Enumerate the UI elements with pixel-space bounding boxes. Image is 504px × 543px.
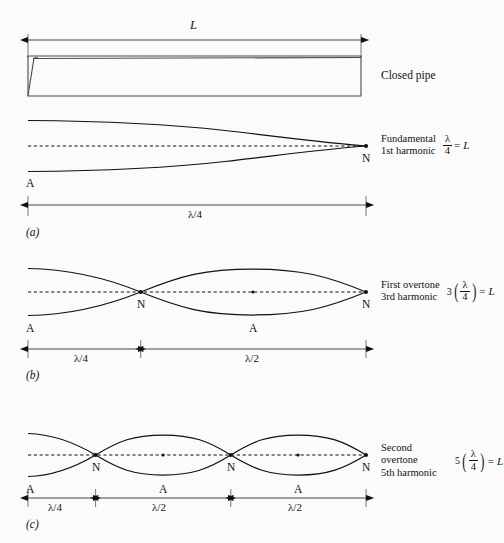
panel-a-harmonic-names: Fundamental 1st harmonic (381, 133, 436, 158)
panel-c-node-dot-3 (364, 453, 368, 457)
panel-a-equation-equals: = (453, 139, 461, 151)
panel-b-paren-open: ( (454, 283, 458, 299)
panel-b-node-label-1: N (137, 298, 145, 311)
panel-b-equation: 3 ( λ 4 ) = L (447, 280, 496, 303)
closed-pipe-drawing (28, 56, 361, 96)
panel-a-harmonic-annotation: Fundamental 1st harmonic λ 4 = L (381, 133, 470, 158)
panel-b-antinode-label-1: A (26, 322, 34, 335)
panel-c-antinode-dot-2 (296, 453, 299, 456)
panel-b-wave (28, 269, 368, 316)
panel-a-equation-denominator: 4 (443, 146, 452, 157)
panel-a-node-label-1: N (362, 152, 370, 165)
panel-b-caption: (b) (26, 369, 39, 382)
panel-c-node-label-1: N (92, 461, 100, 474)
panel-c-paren-close: ) (480, 453, 484, 469)
panel-c-antinode-label-3: A (294, 483, 302, 496)
figure-canvas: L Closed pipe A N λ/4 (a) Fundamental 1s… (0, 0, 504, 543)
panel-c-harmonic-annotation: Second overtone 5th harmonic 5 ( λ 4 ) =… (381, 442, 504, 479)
panel-c-antinode-label-2: A (159, 483, 167, 496)
panel-b-harmonic-annotation: First overtone 3rd harmonic 3 ( λ 4 ) = … (381, 279, 496, 304)
panel-a-dimension-label-1: λ/4 (188, 208, 202, 220)
panel-a-wave (28, 121, 368, 172)
panel-c-harmonic-line-2: 5th harmonic (381, 467, 448, 479)
pipe-length-dimension (28, 34, 361, 58)
panel-c-node-dot-2 (229, 453, 233, 457)
panel-c-equation: 5 ( λ 4 ) = L (455, 449, 504, 472)
panel-b-equation-denominator: 4 (460, 292, 469, 303)
panel-c-antinode-dot-1 (161, 453, 164, 456)
panel-c-node-dot-1 (94, 453, 98, 457)
panel-a-equation: λ 4 = L (443, 134, 471, 157)
panel-c-envelope-upper (28, 434, 366, 476)
panel-b-harmonic-line-2: 3rd harmonic (381, 291, 440, 303)
panel-a-harmonic-line-2: 1st harmonic (381, 145, 436, 157)
panel-c-dimension-label-3: λ/2 (288, 501, 302, 513)
panel-b-equation-equals: = (478, 285, 486, 297)
panel-c-node-label-3: N (362, 461, 370, 474)
panel-c-equation-fraction: λ 4 (469, 449, 478, 472)
pipe-length-label: L (190, 18, 197, 32)
panel-c-equation-result: L (496, 455, 504, 467)
panel-c-dimension-label-1: λ/4 (48, 501, 62, 513)
panel-a-node-dot (364, 144, 368, 148)
panel-c-equation-coefficient: 5 (455, 455, 460, 466)
panel-c-paren-open: ( (462, 453, 466, 469)
panel-b-node-label-2: N (362, 298, 370, 311)
closed-pipe-caption: Closed pipe (381, 69, 436, 82)
panel-c-antinode-label-1: A (26, 483, 34, 496)
panel-c-caption: (c) (26, 518, 39, 531)
panel-c-dimension-label-2: λ/2 (152, 501, 166, 513)
panel-b-harmonic-line-1: First overtone (381, 279, 440, 291)
panel-b-harmonic-names: First overtone 3rd harmonic (381, 279, 440, 304)
panel-b-node-dot-2 (364, 290, 368, 294)
panel-c-envelope-lower (28, 435, 366, 477)
panel-b-dimension-label-1: λ/4 (74, 352, 88, 364)
panel-c-harmonic-names: Second overtone 5th harmonic (381, 442, 448, 479)
panel-a-envelope-upper (28, 121, 366, 147)
panel-a-antinode-label-1: A (26, 177, 34, 190)
panel-a-harmonic-line-1: Fundamental (381, 133, 436, 145)
panel-a-envelope-lower (28, 146, 366, 172)
panel-b-equation-fraction: λ 4 (460, 280, 469, 303)
panel-b-dimension-label-2: λ/2 (245, 352, 259, 364)
panel-c-equation-equals: = (487, 455, 495, 467)
panel-b-antinode-label-2: A (249, 322, 257, 335)
panel-a-equation-numerator: λ (443, 134, 452, 145)
panel-b-equation-coefficient: 3 (447, 286, 452, 297)
panel-b-node-dot-1 (139, 290, 143, 294)
panel-c-wave (28, 434, 368, 477)
panel-a-equation-fraction: λ 4 (443, 134, 452, 157)
panel-c-equation-numerator: λ (469, 449, 478, 460)
panel-b-antinode-dot (251, 290, 254, 293)
panel-b-equation-numerator: λ (460, 280, 469, 291)
panel-a-equation-result: L (462, 139, 470, 151)
panel-c-node-label-2: N (227, 461, 235, 474)
panel-c-equation-denominator: 4 (469, 461, 478, 472)
panel-c-dimension-line (28, 489, 366, 507)
panel-c-harmonic-line-1: Second overtone (381, 442, 448, 467)
panel-b-equation-result: L (487, 285, 495, 297)
panel-a-caption: (a) (26, 226, 39, 239)
panel-b-paren-close: ) (472, 283, 476, 299)
